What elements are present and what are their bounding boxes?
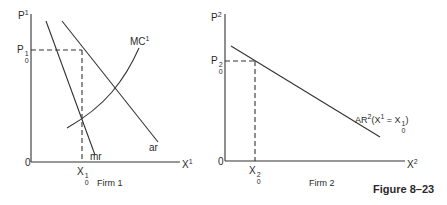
- firm2-y-axis-label: P2: [211, 10, 222, 23]
- firm1-x-axis-label: X1: [182, 157, 193, 170]
- firm1-price-level-label: P10: [17, 45, 29, 64]
- firm1-y-axis-label: P1: [18, 8, 29, 21]
- firm1-mc-label: MC1: [130, 34, 149, 47]
- firm2-ar-label: AR2(X1 = X10): [355, 112, 409, 134]
- firm1-origin-label: 0: [25, 158, 31, 168]
- firm1-quantity-level-label: X10: [77, 167, 89, 186]
- firm1-caption: Firm 1: [97, 178, 123, 188]
- firm2-x-axis-label: X2: [407, 157, 418, 170]
- diagram-canvas: [0, 0, 447, 205]
- firm2-origin-label: 0: [218, 157, 224, 167]
- firm1-mr-curve: [46, 21, 95, 155]
- figure-label: Figure 8–23: [373, 183, 434, 195]
- firm1-mc-curve: [67, 48, 139, 128]
- firm2-caption: Firm 2: [309, 178, 335, 188]
- firm1-mr-label: mr: [90, 152, 102, 162]
- firm2-quantity-level-label: X20: [249, 166, 261, 185]
- firm1-ar-label: ar: [149, 143, 158, 153]
- firm2-price-level-label: P20: [211, 56, 223, 75]
